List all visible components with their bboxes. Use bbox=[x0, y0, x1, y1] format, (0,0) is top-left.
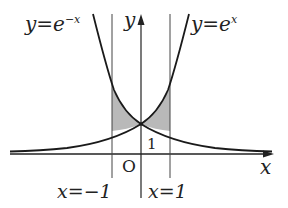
label-x-pos-one: x=1 bbox=[148, 182, 187, 201]
x-axis-label: x bbox=[260, 157, 271, 177]
curve-label-prefix: y=e bbox=[25, 12, 65, 36]
label-curve-exp-neg: y=e−x bbox=[25, 14, 80, 34]
intersection-y-label: 1 bbox=[147, 137, 157, 152]
curve-exp-neg bbox=[93, 14, 272, 152]
intersection-point bbox=[139, 122, 143, 126]
y-axis-arrow-icon bbox=[138, 14, 145, 25]
origin-label: O bbox=[122, 158, 136, 175]
curve-label-prefix: y=e bbox=[191, 12, 231, 36]
curve-label-exponent: −x bbox=[65, 13, 80, 26]
label-curve-exp-pos: y=ex bbox=[191, 14, 237, 34]
y-axis-label: y bbox=[124, 10, 135, 30]
curve-label-exponent: x bbox=[231, 13, 237, 26]
label-x-neg-one: x=−1 bbox=[57, 182, 112, 201]
